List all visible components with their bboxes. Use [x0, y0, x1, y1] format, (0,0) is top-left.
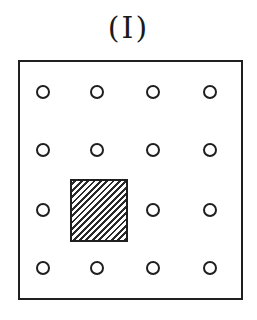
circle-marker — [146, 143, 160, 157]
circle-marker — [36, 261, 50, 275]
hatched-square — [70, 179, 128, 242]
circle-marker — [203, 143, 217, 157]
circle-marker — [90, 85, 104, 99]
figure-label: (I) — [0, 10, 257, 45]
circle-marker — [36, 143, 50, 157]
circle-marker — [90, 143, 104, 157]
circle-marker — [203, 203, 217, 217]
circle-marker — [203, 85, 217, 99]
circle-marker — [36, 203, 50, 217]
circle-marker — [90, 261, 104, 275]
circle-marker — [203, 261, 217, 275]
circle-marker — [146, 203, 160, 217]
circle-marker — [146, 261, 160, 275]
circle-marker — [36, 85, 50, 99]
circle-marker — [146, 85, 160, 99]
